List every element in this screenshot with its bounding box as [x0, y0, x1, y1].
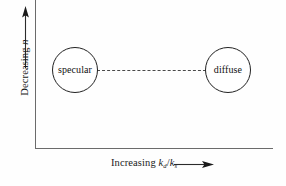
- y-axis-label: Decreasing n: [19, 20, 30, 116]
- x-axis-label: Increasing kd/ks: [111, 157, 177, 168]
- y-axis-label-prefix: Decreasing: [19, 45, 30, 96]
- y-axis-line: [35, 0, 36, 149]
- shading-continuum-figure: Decreasing n Increasing kd/ks specular d…: [0, 0, 286, 186]
- x-axis-label-prefix: Increasing: [111, 157, 158, 168]
- node-connector-dashed-line: [97, 70, 206, 72]
- node-specular: specular: [52, 47, 98, 93]
- x-axis-numerator-subscript: d: [163, 162, 166, 169]
- node-specular-label: specular: [58, 65, 92, 75]
- y-axis-label-variable: n: [19, 39, 30, 44]
- x-axis-line: [35, 148, 273, 149]
- node-diffuse-label: diffuse: [214, 65, 242, 75]
- x-axis-direction-arrow-icon: [174, 160, 214, 169]
- node-diffuse: diffuse: [205, 47, 251, 93]
